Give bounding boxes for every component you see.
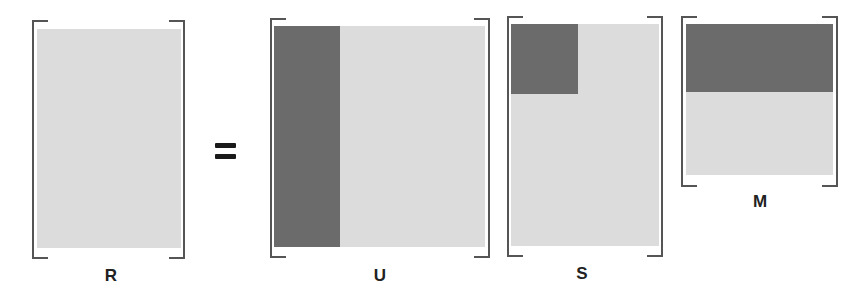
matrix-r-label: R bbox=[91, 266, 131, 286]
equals-bar-top bbox=[215, 143, 236, 148]
matrix-u-label: U bbox=[360, 266, 400, 286]
matrix-m-highlight-rows bbox=[686, 24, 833, 92]
matrix-m-label: M bbox=[740, 192, 780, 212]
matrix-s-highlight-block bbox=[511, 24, 578, 94]
equals-bar-bottom bbox=[215, 154, 236, 159]
matrix-u-highlight-columns bbox=[274, 26, 340, 247]
matrix-s-label: S bbox=[562, 264, 602, 284]
matrix-r-fill bbox=[37, 29, 181, 248]
